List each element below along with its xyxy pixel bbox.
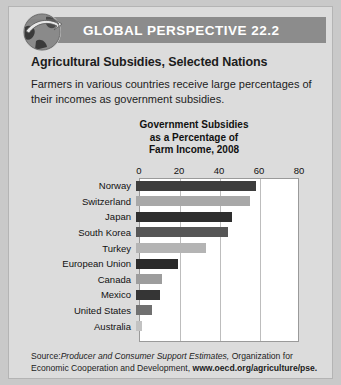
x-axis-tick-label: 40: [214, 165, 225, 176]
bar-track: [135, 225, 295, 241]
figure-root: GLOBAL PERSPECTIVE 22.2: [0, 0, 341, 385]
bar: [136, 290, 160, 300]
chart-title-line-2: as a Percentage of: [119, 132, 269, 145]
bar-track: [135, 303, 295, 319]
bar-rows: NorwaySwitzerlandJapanSouth KoreaTurkeyE…: [31, 178, 321, 342]
banner-title: GLOBAL PERSPECTIVE 22.2: [83, 23, 280, 38]
bar: [136, 305, 152, 315]
bar-row: Norway: [31, 178, 321, 194]
chart-title: Government Subsidies as a Percentage of …: [119, 119, 269, 157]
bar-track: [135, 272, 295, 288]
bar-category-label: Canada: [31, 274, 135, 285]
bar: [136, 321, 142, 331]
chart-title-line-3: Farm Income, 2008: [119, 144, 269, 157]
source-note: Source:Producer and Consumer Support Est…: [31, 351, 323, 374]
bar-row: Canada: [31, 272, 321, 288]
bar-row: Australia: [31, 318, 321, 334]
globe-arrow-icon: [21, 11, 65, 53]
bar-category-label: United States: [31, 305, 135, 316]
bar-row: United States: [31, 303, 321, 319]
figure-intro-text: Farmers in various countries receive lar…: [31, 77, 327, 107]
bar-track: [135, 194, 295, 210]
bar-track: [135, 209, 295, 225]
source-label: Source:: [31, 351, 61, 361]
bar-category-label: Japan: [31, 211, 135, 222]
banner: GLOBAL PERSPECTIVE 22.2: [51, 17, 326, 43]
bar-category-label: Norway: [31, 180, 135, 191]
x-axis-tick-label: 0: [136, 165, 141, 176]
bar-category-label: Turkey: [31, 243, 135, 254]
chart-title-line-1: Government Subsidies: [119, 119, 269, 132]
bar: [136, 196, 250, 206]
bar-row: Switzerland: [31, 194, 321, 210]
bar-category-label: European Union: [31, 258, 135, 269]
bar-category-label: Mexico: [31, 289, 135, 300]
source-url[interactable]: www.oecd.org/agriculture/pse.: [192, 363, 317, 373]
bar-track: [135, 240, 295, 256]
bar-track: [135, 318, 295, 334]
bar-category-label: South Korea: [31, 227, 135, 238]
figure-title: Agricultural Subsidies, Selected Nations: [31, 55, 321, 69]
bar-row: Japan: [31, 209, 321, 225]
bar: [136, 243, 206, 253]
bar: [136, 181, 256, 191]
bar-category-label: Australia: [31, 321, 135, 332]
bar: [136, 212, 232, 222]
bar-chart: 020406080 NorwaySwitzerlandJapanSouth Ko…: [31, 165, 321, 345]
bar-track: [135, 256, 295, 272]
bar-track: [135, 178, 295, 194]
x-axis-tick-label: 80: [294, 165, 305, 176]
source-italic: Producer and Consumer Support Estimates,: [61, 351, 230, 361]
bar-track: [135, 287, 295, 303]
bar: [136, 274, 162, 284]
bar: [136, 259, 178, 269]
figure-card: GLOBAL PERSPECTIVE 22.2: [8, 6, 333, 379]
bar-row: South Korea: [31, 225, 321, 241]
bar-row: Mexico: [31, 287, 321, 303]
bar: [136, 227, 228, 237]
x-axis-tick-label: 20: [174, 165, 185, 176]
bar-row: European Union: [31, 256, 321, 272]
bar-category-label: Switzerland: [31, 196, 135, 207]
x-axis-tick-labels: 020406080: [31, 165, 321, 178]
bar-row: Turkey: [31, 240, 321, 256]
x-axis-tick-label: 60: [254, 165, 265, 176]
